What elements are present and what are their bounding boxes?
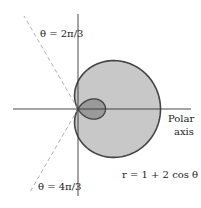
limacon-diagram: θ = 2π/3 θ = 4π/3 Polar axis r = 1 + 2 c… <box>0 0 201 208</box>
dashed-ray-lower <box>30 109 78 192</box>
ray-upper-label: θ = 2π/3 <box>40 28 83 39</box>
polar-axis-label-2: axis <box>174 126 194 137</box>
equation-label: r = 1 + 2 cos θ <box>122 169 198 180</box>
polar-axis-label-1: Polar <box>168 113 194 124</box>
ray-lower-label: θ = 4π/3 <box>38 181 81 192</box>
